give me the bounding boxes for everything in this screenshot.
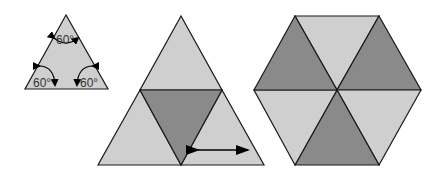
angle-label-bottom-right: 60°	[80, 76, 98, 90]
top-triangle	[140, 16, 222, 90]
angle-label-bottom-left: 60°	[33, 76, 51, 90]
subdivided-triangle	[98, 16, 264, 165]
geometry-diagram: 60° 60° 60°	[0, 0, 445, 181]
hexagon	[254, 16, 421, 165]
angle-triangle: 60° 60° 60°	[25, 15, 108, 90]
angle-label-top: 60°	[56, 33, 74, 47]
